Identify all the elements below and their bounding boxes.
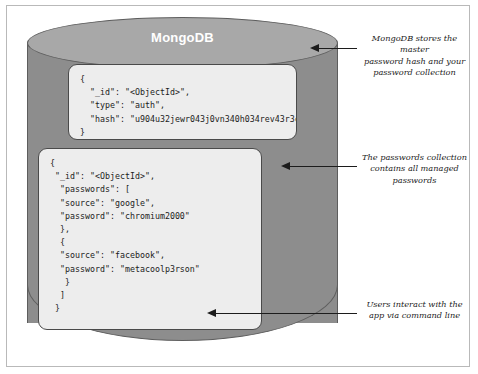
passwords-document-card: { "_id": "<ObjectId>", "passwords": [ "s… [38, 148, 262, 330]
annotation-arrow-3 [207, 309, 357, 318]
annotation-arrow-2 [281, 162, 357, 171]
mongodb-architecture-diagram: MongoDB { "_id": "<ObjectId>", "type": "… [0, 0, 478, 374]
database-title: MongoDB [27, 30, 338, 45]
arrow-line [216, 313, 357, 314]
annotation-passwords-collection: The passwords collection contains all ma… [357, 152, 472, 186]
arrow-line [290, 166, 357, 167]
arrow-head-icon [310, 44, 319, 52]
arrow-head-icon [281, 162, 290, 170]
auth-document-card: { "_id": "<ObjectId>", "type": "auth", "… [68, 64, 297, 140]
annotation-command-line: Users interact with the app via command … [357, 299, 472, 322]
annotation-arrow-1 [310, 44, 357, 53]
annotation-master-hash: MongoDB stores the master password hash … [357, 33, 472, 79]
arrow-line [319, 48, 357, 49]
arrow-head-icon [207, 309, 216, 317]
